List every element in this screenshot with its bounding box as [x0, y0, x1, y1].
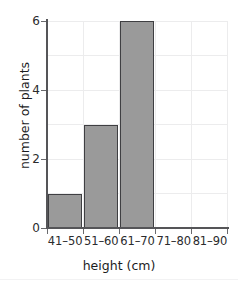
bar-61-70 — [120, 21, 154, 228]
bottom-rule — [0, 279, 238, 280]
x-axis-spine — [46, 227, 229, 229]
gridline-vertical-3 — [155, 21, 156, 228]
y-axis-spine — [46, 19, 48, 229]
x-tick-label-81-90: 81–90 — [192, 234, 228, 250]
x-tick-label-41-50: 41–50 — [47, 234, 83, 250]
plot-area — [47, 21, 228, 228]
x-tick-label-71-80: 71–80 — [156, 234, 192, 250]
bar-41-50 — [48, 194, 82, 229]
x-tick-label-51-60: 51–60 — [83, 234, 119, 250]
gridline-vertical-5 — [227, 21, 228, 228]
gridline-vertical-4 — [191, 21, 192, 228]
y-axis-title: number of plants — [17, 36, 32, 196]
x-axis-tick-labels: 41–50 51–60 61–70 71–80 81–90 — [47, 234, 228, 250]
histogram-figure: 6 4 2 0 41–50 51–60 6 — [0, 0, 238, 283]
bar-51-60 — [84, 125, 118, 229]
x-tick-label-61-70: 61–70 — [119, 234, 155, 250]
y-axis-title-container: number of plants — [0, 0, 26, 283]
x-axis-title: height (cm) — [0, 258, 238, 273]
